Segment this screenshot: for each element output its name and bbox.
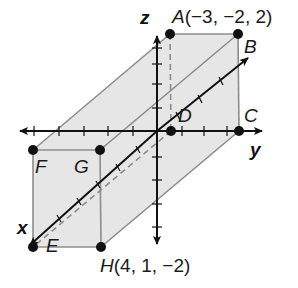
point-E [28,242,38,252]
point-D [166,126,176,136]
y-axis-label: y [250,140,261,159]
x-axis-label: x [17,218,28,237]
z-axis-label: z [140,8,150,27]
label-C: C [244,106,258,125]
point-C [234,126,244,136]
label-B: B [244,37,257,56]
label-A: A(−3, −2, 2) [172,7,272,26]
label-F: F [35,157,47,176]
point-A [165,29,175,39]
label-D: D [178,106,192,125]
point-H [96,242,106,252]
edge-GH [100,150,101,247]
point-G [95,145,105,155]
point-B [233,29,243,39]
edge-BC [238,34,239,131]
label-E: E [46,236,59,255]
label-G: G [74,157,89,176]
label-H: H(4, 1, −2) [100,256,190,275]
point-F [28,145,38,155]
